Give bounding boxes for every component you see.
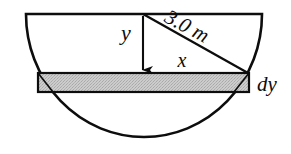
differential-strip — [38, 73, 249, 92]
geometry-figure: y x 3.0 m dy — [0, 0, 291, 154]
label-dy: dy — [257, 72, 278, 96]
label-y: y — [119, 20, 131, 45]
figure-canvas: y x 3.0 m dy — [0, 0, 291, 154]
label-x: x — [177, 49, 187, 71]
